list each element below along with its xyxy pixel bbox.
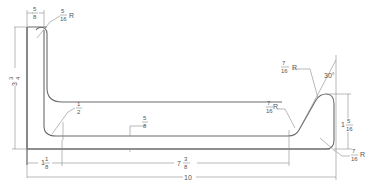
svg-text:5: 5	[143, 115, 147, 121]
label-angle: 30°	[324, 72, 335, 79]
svg-text:16: 16	[346, 126, 353, 132]
svg-text:30°: 30°	[324, 72, 335, 79]
svg-text:16: 16	[351, 156, 358, 162]
label-middle-length: 7 3 8	[177, 156, 190, 170]
svg-text:R: R	[292, 64, 297, 71]
svg-text:7: 7	[267, 100, 271, 106]
label-overall-length: 10	[184, 174, 192, 181]
label-right-radius-upper: 7 16 R	[281, 60, 297, 74]
label-inner-radius: 1 2	[76, 101, 82, 115]
svg-text:7: 7	[352, 148, 356, 154]
svg-text:5: 5	[61, 8, 65, 14]
svg-text:7: 7	[177, 160, 181, 167]
svg-text:5: 5	[347, 118, 351, 124]
part-outline	[27, 27, 330, 165]
label-bottom-right-radius: 7 16 R	[351, 148, 365, 162]
svg-text:8: 8	[33, 14, 37, 20]
svg-text:8: 8	[45, 164, 49, 170]
svg-text:R: R	[69, 12, 74, 19]
profile-detail	[27, 27, 334, 149]
svg-text:8: 8	[184, 164, 188, 170]
technical-drawing: 5 8 5 16 R 3 3 4 1 2 5 8 1 1 8	[0, 0, 369, 190]
drawing-canvas: 5 8 5 16 R 3 3 4 1 2 5 8 1 1 8	[0, 0, 369, 190]
label-left-height: 3 3 4	[8, 76, 21, 86]
svg-text:5: 5	[33, 6, 37, 12]
svg-text:3: 3	[184, 156, 188, 162]
svg-text:16: 16	[60, 16, 67, 22]
label-top-radius: 5 16 R	[60, 8, 74, 22]
svg-text:8: 8	[143, 123, 147, 129]
svg-text:R: R	[360, 151, 365, 158]
svg-text:1: 1	[45, 156, 49, 162]
svg-text:1: 1	[341, 121, 345, 128]
dimension-lines	[12, 10, 352, 180]
label-thickness: 5 8	[142, 115, 148, 129]
label-right-radius-lower: 7 16 R	[266, 100, 278, 114]
dimension-labels: 5 8 5 16 R 3 3 4 1 2 5 8 1 1 8	[8, 6, 365, 181]
svg-text:3: 3	[11, 82, 18, 86]
label-left-offset: 1 1 8	[41, 156, 50, 170]
label-top-width: 5 8	[32, 6, 38, 20]
svg-text:7: 7	[282, 60, 286, 66]
svg-text:2: 2	[77, 109, 81, 115]
svg-text:3: 3	[8, 76, 14, 80]
svg-text:10: 10	[184, 174, 192, 181]
label-right-height: 1 5 16	[341, 118, 353, 132]
svg-text:R: R	[273, 103, 278, 110]
svg-text:16: 16	[281, 68, 288, 74]
svg-text:4: 4	[15, 76, 21, 80]
